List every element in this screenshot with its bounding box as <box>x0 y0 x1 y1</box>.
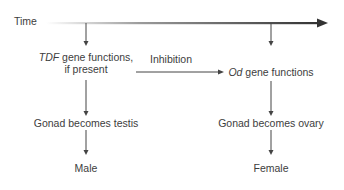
timeline-arrow <box>46 19 328 28</box>
arrow-testis-to-male <box>84 130 89 155</box>
inhibition-label: Inhibition <box>150 53 192 65</box>
arrow-ovary-to-female <box>269 130 274 155</box>
female-label: Female <box>253 162 288 174</box>
arrow-time-to-tdf <box>84 23 89 46</box>
tdf-gene-name: TDF <box>39 51 59 63</box>
time-label: Time <box>14 15 37 27</box>
inhibition-arrow <box>136 70 224 75</box>
od-gene-label: Od gene functions <box>228 66 313 78</box>
male-label: Male <box>75 162 98 174</box>
arrow-od-to-ovary <box>269 81 274 116</box>
od-gene-name: Od <box>228 66 242 78</box>
ovary-label: Gonad becomes ovary <box>218 117 324 129</box>
arrow-time-to-od <box>269 23 274 46</box>
tdf-condition: if present <box>64 63 107 75</box>
diagram-arrows <box>0 0 344 190</box>
testis-label: Gonad becomes testis <box>34 117 138 129</box>
arrow-tdf-to-testis <box>84 80 89 116</box>
tdf-gene-label: TDF gene functions, if present <box>39 51 134 75</box>
